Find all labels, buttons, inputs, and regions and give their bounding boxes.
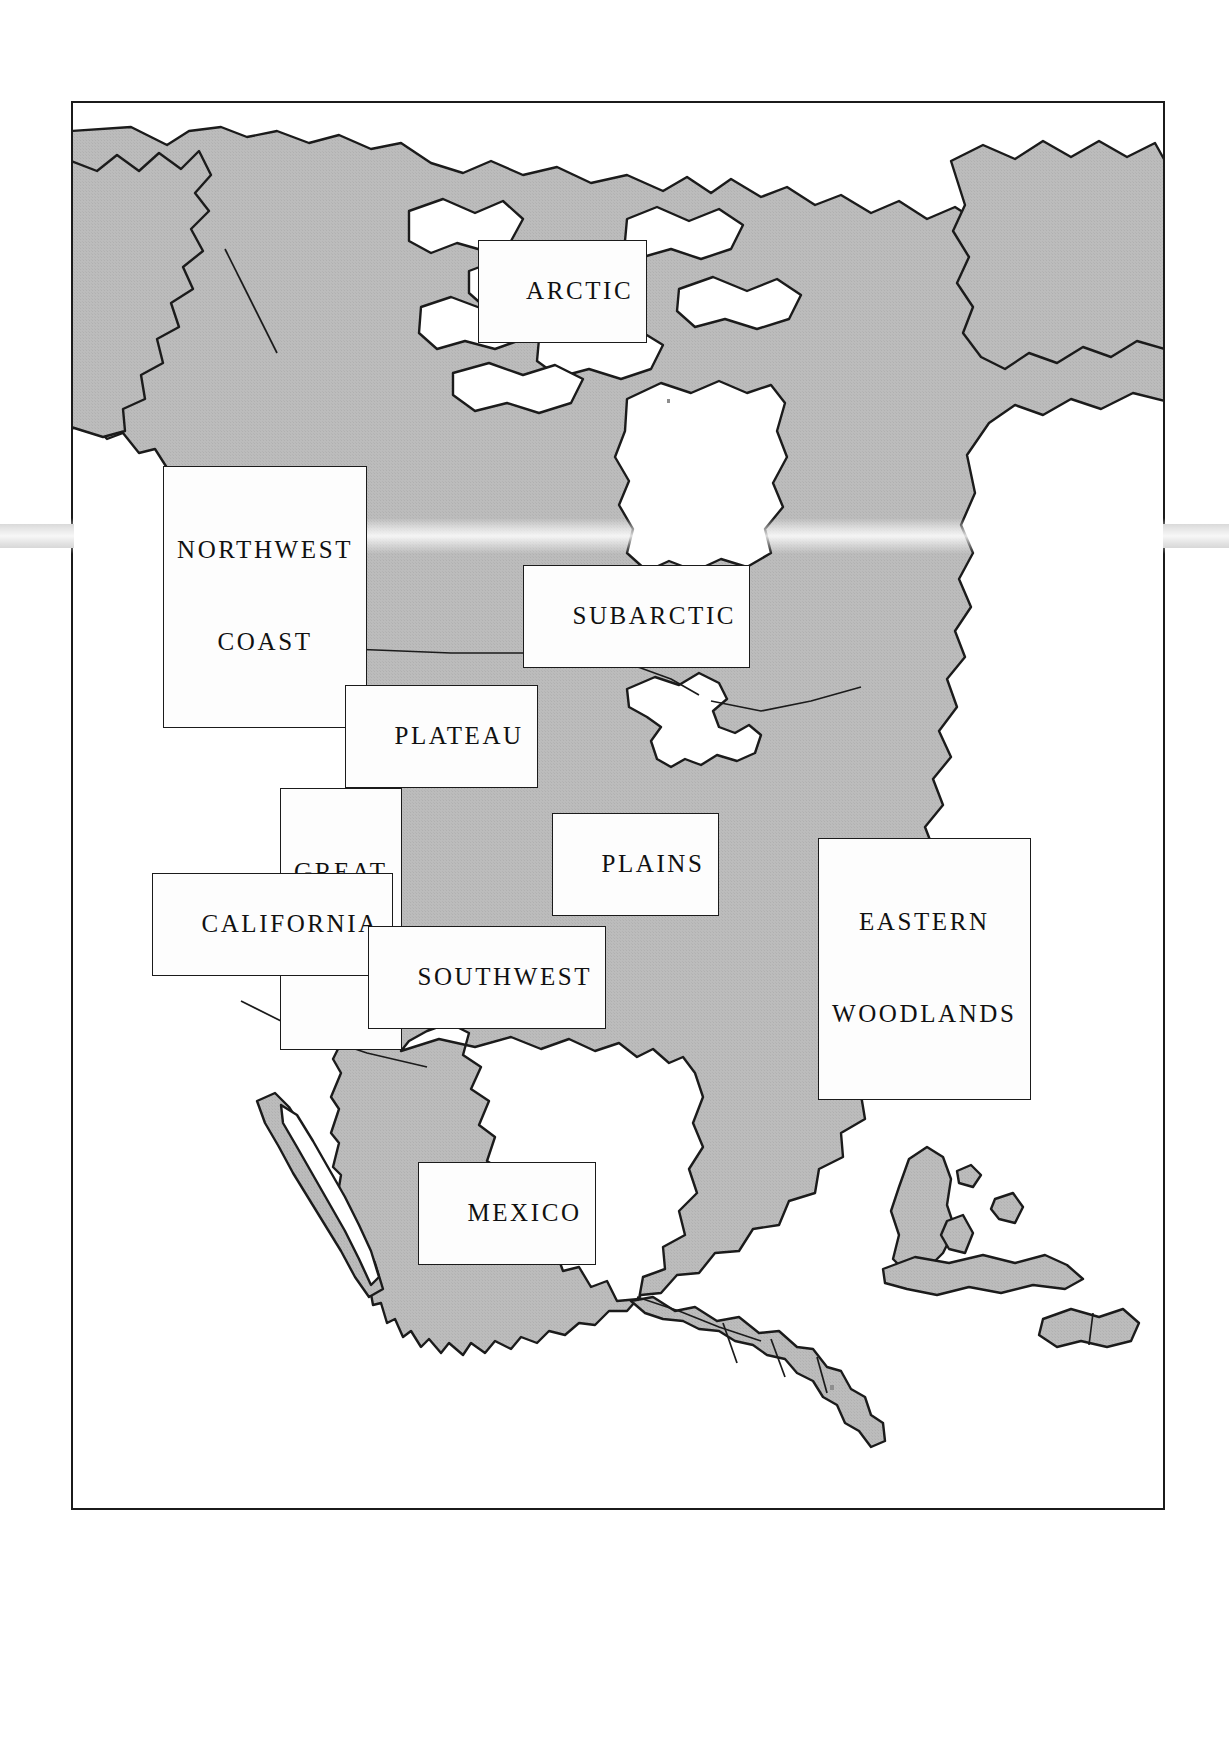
- map-label-arctic[interactable]: ARCTIC: [478, 240, 647, 343]
- map-label-subarctic-text: SUBARCTIC: [572, 602, 736, 629]
- map-label-northwest-coast-line2: COAST: [177, 627, 353, 658]
- map-label-california[interactable]: CALIFORNIA: [152, 873, 393, 976]
- scan-band-left-artifact: [0, 524, 74, 548]
- scan-band-right-artifact: [1163, 524, 1229, 548]
- map-label-arctic-text: ARCTIC: [526, 277, 633, 304]
- map-label-california-text: CALIFORNIA: [201, 910, 378, 937]
- hudson-bay: [615, 381, 787, 571]
- map-label-eastern-woodlands-line1: EASTERN: [832, 907, 1017, 938]
- cuba-island: [883, 1255, 1083, 1295]
- central-america: [631, 1297, 885, 1447]
- map-label-eastern-woodlands-line2: WOODLANDS: [832, 999, 1017, 1030]
- map-label-mexico-text: MEXICO: [467, 1199, 581, 1226]
- map-label-northwest-coast-line1: NORTHWEST: [177, 535, 353, 566]
- florida-peninsula: [891, 1147, 955, 1273]
- map-label-southwest-text: SOUTHWEST: [417, 963, 592, 990]
- greenland: [951, 141, 1165, 369]
- map-label-plains[interactable]: PLAINS: [552, 813, 719, 916]
- map-label-plains-text: PLAINS: [601, 850, 704, 877]
- map-label-southwest[interactable]: SOUTHWEST: [368, 926, 606, 1029]
- map-label-plateau-text: PLATEAU: [394, 722, 523, 749]
- map-label-mexico[interactable]: MEXICO: [418, 1162, 596, 1265]
- bahamas-island-2: [991, 1193, 1023, 1223]
- map-label-eastern-woodlands[interactable]: EASTERN WOODLANDS: [818, 838, 1031, 1100]
- map-label-plateau[interactable]: PLATEAU: [345, 685, 538, 788]
- scanned-page: ARCTIC NORTHWEST COAST SUBARCTIC PLATEAU…: [0, 0, 1229, 1743]
- map-label-northwest-coast[interactable]: NORTHWEST COAST: [163, 466, 367, 728]
- bahamas-island-1: [957, 1165, 981, 1187]
- map-label-subarctic[interactable]: SUBARCTIC: [523, 565, 750, 668]
